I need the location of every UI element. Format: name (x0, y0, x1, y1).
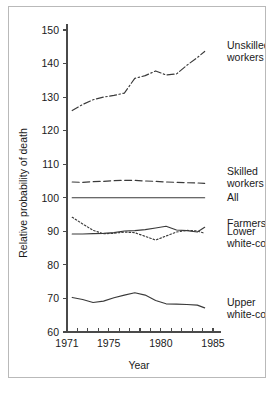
y-axis-title: Relative probability of death (17, 128, 29, 258)
relative-probability-of-death-chart: 60708090100110120130140150 1971197519801… (9, 7, 265, 377)
series-line-unskilled-workers (72, 51, 204, 110)
series-label-skilled-workers: workers (226, 177, 264, 189)
y-tick-label: 100 (41, 192, 59, 204)
y-tick-label: 70 (47, 292, 59, 304)
series-label-upper-white-collar: Upper (227, 296, 256, 308)
series-labels: UnskilledworkersSkilledworkersAllFarmers… (226, 39, 265, 320)
y-tick-label: 60 (47, 326, 59, 338)
x-axis-ticks (67, 328, 213, 333)
series-label-unskilled-workers: Unskilled (227, 39, 265, 51)
series-label-unskilled-workers: workers (226, 51, 264, 63)
y-tick-label: 90 (47, 225, 59, 237)
series-line-upper-white-collar (72, 293, 204, 308)
x-tick-label: 1975 (97, 337, 121, 349)
series-line-skilled-workers (72, 180, 204, 183)
series-line-lower-white-collar (72, 217, 204, 240)
y-tick-label: 110 (42, 158, 59, 170)
y-tick-label: 150 (41, 24, 59, 36)
x-tick-label: 1985 (201, 337, 225, 349)
x-tick-label: 1980 (149, 337, 173, 349)
x-axis-tick-labels: 1971197519801985 (55, 337, 225, 349)
y-axis-tick-labels: 60708090100110120130140150 (41, 24, 59, 338)
y-axis-ticks (63, 30, 67, 332)
x-axis-title: Year (128, 359, 150, 371)
y-tick-label: 130 (41, 91, 59, 103)
plot-area: 60708090100110120130140150 1971197519801… (17, 24, 265, 371)
y-tick-label: 120 (41, 124, 59, 136)
y-tick-label: 80 (47, 259, 59, 271)
x-tick-label: 1971 (55, 337, 79, 349)
figure-frame: 60708090100110120130140150 1971197519801… (8, 6, 266, 378)
series-label-lower-white-collar: Lower (227, 225, 256, 237)
axis-lines (67, 24, 221, 332)
series-label-lower-white-collar: white-collar (226, 237, 265, 249)
series-label-upper-white-collar: white-collar (226, 308, 265, 320)
series-label-skilled-workers: Skilled (227, 165, 258, 177)
series-label-all: All (227, 191, 239, 203)
series-lines (72, 51, 204, 307)
y-tick-label: 140 (41, 57, 59, 69)
